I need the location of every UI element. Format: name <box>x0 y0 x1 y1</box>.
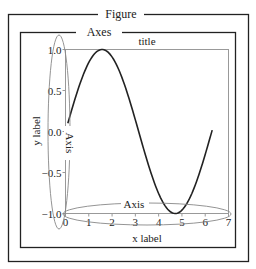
y-axis-annotation-label: Axis <box>64 133 76 154</box>
x-axis-label: x label <box>132 232 162 244</box>
y-tick-label: 0.0 <box>48 126 62 138</box>
sine-curve-line <box>68 50 212 214</box>
x-tick-label: 4 <box>156 216 162 228</box>
plot-title: title <box>138 35 155 47</box>
y-axis-ticks: 1.00.50.0−0.5−1.0 <box>42 44 66 220</box>
figure-frame: Figure <box>9 6 249 262</box>
y-tick-label: 0.5 <box>48 85 62 97</box>
axes-frame-label: Axes <box>87 25 112 39</box>
y-tick-label: −1.0 <box>42 208 62 220</box>
x-tick-label: 3 <box>133 216 139 228</box>
x-tick-label: 2 <box>109 216 115 228</box>
x-tick-label: 5 <box>179 216 185 228</box>
figure-diagram: Figure Axes title 1.00.50.0−0.5−1.0 0123… <box>0 0 256 269</box>
figure-frame-label: Figure <box>105 7 136 21</box>
y-tick-label: −0.5 <box>42 167 62 179</box>
y-tick-label: 1.0 <box>48 44 62 56</box>
y-axis-label: y label <box>30 116 42 146</box>
plot-spines <box>66 50 229 214</box>
x-axis-annotation-label: Axis <box>124 198 145 210</box>
figure-canvas: Figure Axes title 1.00.50.0−0.5−1.0 0123… <box>0 0 256 269</box>
